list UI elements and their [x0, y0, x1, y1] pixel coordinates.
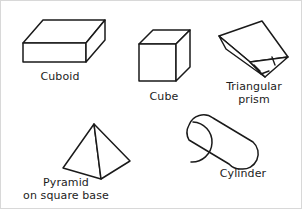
label-cube-line-1: Cube [121, 91, 207, 104]
shape-cylinder [187, 115, 258, 169]
label-pyramid-line-2: on square base [5, 190, 127, 203]
label-triangular-prism: Triangular prism [207, 81, 301, 106]
label-cube: Cube [121, 91, 207, 104]
label-pyramid: Pyramid on square base [5, 177, 127, 202]
shape-cuboid [23, 20, 105, 62]
shape-cube [139, 30, 190, 81]
label-cuboid-line-1: Cuboid [1, 71, 119, 84]
label-cylinder-line-1: Cylinder [197, 168, 289, 181]
figure-canvas: Cuboid Cube Triangular prism Pyramid on … [0, 0, 302, 209]
label-cylinder: Cylinder [197, 168, 289, 181]
label-prism-line-1: Triangular [207, 81, 301, 94]
label-pyramid-line-1: Pyramid [5, 177, 127, 190]
cuboid-front-face [23, 43, 86, 62]
cube-front-face [139, 44, 176, 81]
label-cuboid: Cuboid [1, 71, 119, 84]
shape-pyramid [63, 124, 130, 179]
label-prism-line-2: prism [207, 94, 301, 107]
shape-triangular-prism [219, 21, 288, 77]
pyramid-right-face [94, 124, 130, 179]
prism-top-face [219, 21, 288, 62]
